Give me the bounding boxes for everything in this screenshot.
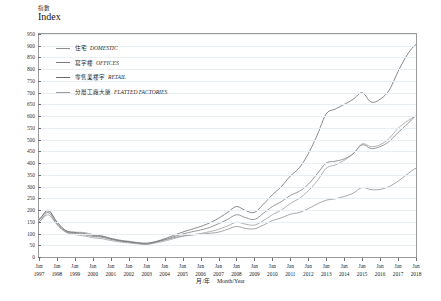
y-tick-label: 250 xyxy=(3,195,35,201)
x-tick-mark xyxy=(75,258,76,261)
gridline xyxy=(39,222,416,223)
series-line xyxy=(39,168,416,243)
gridline xyxy=(39,116,416,117)
y-tick-mark xyxy=(38,198,41,199)
gridline xyxy=(39,104,416,105)
y-tick-mark xyxy=(38,57,41,58)
y-tick-mark xyxy=(38,151,41,152)
y-tick-label: 200 xyxy=(3,207,35,213)
y-tick-label: 400 xyxy=(3,160,35,166)
legend-item: 住宅DOMESTIC xyxy=(56,41,167,56)
y-tick-mark xyxy=(38,34,41,35)
y-axis-title-en: Index xyxy=(38,12,61,23)
x-tick-mark xyxy=(272,258,273,261)
x-tick-mark xyxy=(236,258,237,261)
series-line xyxy=(39,116,416,244)
y-tick-mark xyxy=(38,81,41,82)
x-tick-mark xyxy=(380,258,381,261)
y-tick-label: 850 xyxy=(3,54,35,60)
gridline xyxy=(39,245,416,246)
x-tick-mark xyxy=(183,258,184,261)
x-tick-mark xyxy=(201,258,202,261)
y-tick-label: 750 xyxy=(3,78,35,84)
y-tick-mark xyxy=(38,210,41,211)
y-tick-label: 500 xyxy=(3,137,35,143)
x-tick-mark xyxy=(398,258,399,261)
y-tick-label: 800 xyxy=(3,66,35,72)
y-tick-label: 950 xyxy=(3,31,35,37)
gridline xyxy=(39,187,416,188)
y-tick-label: 350 xyxy=(3,172,35,178)
x-tick-mark xyxy=(254,258,255,261)
y-tick-mark xyxy=(38,245,41,246)
x-tick-mark xyxy=(219,258,220,261)
gridline xyxy=(39,163,416,164)
x-tick-mark xyxy=(111,258,112,261)
x-tick-mark xyxy=(416,258,417,261)
legend-label-en: FLATTED FACTORIES xyxy=(114,89,167,95)
y-tick-mark xyxy=(38,69,41,70)
legend-line-icon xyxy=(56,92,70,93)
legend-line-icon xyxy=(56,62,70,63)
x-axis-title: 月/年 Month/Year xyxy=(0,276,441,285)
y-tick-label: 900 xyxy=(3,43,35,49)
y-tick-label: 300 xyxy=(3,184,35,190)
y-tick-label: 100 xyxy=(3,231,35,237)
x-tick-mark xyxy=(147,258,148,261)
x-tick-mark xyxy=(326,258,327,261)
legend-label: 分層工廠大廈FLATTED FACTORIES xyxy=(75,88,167,96)
y-tick-label: 150 xyxy=(3,219,35,225)
legend-line-icon xyxy=(56,77,70,78)
x-tick-mark xyxy=(165,258,166,261)
y-tick-label: 650 xyxy=(3,101,35,107)
legend-label-en: OFFICES xyxy=(96,60,119,66)
legend-label-en: DOMESTIC xyxy=(90,45,118,51)
legend-label-cn: 零售業樓宇 xyxy=(75,74,105,80)
gridline xyxy=(39,198,416,199)
legend-label-cn: 寫字樓 xyxy=(75,60,93,66)
y-axis-title: 指數 Index xyxy=(38,6,61,22)
y-tick-mark xyxy=(38,187,41,188)
legend-label-cn: 住宅 xyxy=(75,45,87,51)
y-tick-mark xyxy=(38,222,41,223)
series-line xyxy=(39,116,416,244)
x-tick-mark xyxy=(344,258,345,261)
y-tick-mark xyxy=(38,93,41,94)
x-tick-mark xyxy=(39,258,40,261)
y-tick-mark xyxy=(38,234,41,235)
legend-label: 零售業樓宇RETAIL xyxy=(75,73,126,81)
legend-label-cn: 分層工廠大廈 xyxy=(75,89,111,95)
legend-item: 分層工廠大廈FLATTED FACTORIES xyxy=(56,85,167,100)
legend-item: 零售業樓宇RETAIL xyxy=(56,70,167,85)
x-tick-mark xyxy=(57,258,58,261)
x-axis-title-cn: 月/年 xyxy=(196,278,210,284)
x-tick-mark xyxy=(290,258,291,261)
y-tick-mark xyxy=(38,175,41,176)
y-tick-label: 600 xyxy=(3,113,35,119)
gridline xyxy=(39,128,416,129)
y-tick-label: 550 xyxy=(3,125,35,131)
y-tick-mark xyxy=(38,140,41,141)
y-tick-mark xyxy=(38,163,41,164)
legend-item: 寫字樓OFFICES xyxy=(56,56,167,71)
y-tick-mark xyxy=(38,46,41,47)
gridline xyxy=(39,140,416,141)
x-tick-mark xyxy=(362,258,363,261)
y-tick-label: 450 xyxy=(3,148,35,154)
legend-line-icon xyxy=(56,48,70,49)
x-tick-mark xyxy=(129,258,130,261)
legend: 住宅DOMESTIC寫字樓OFFICES零售業樓宇RETAIL分層工廠大廈FLA… xyxy=(56,41,167,99)
y-tick-mark xyxy=(38,128,41,129)
legend-label: 住宅DOMESTIC xyxy=(75,44,118,52)
y-tick-label: 50 xyxy=(3,242,35,248)
gridline xyxy=(39,234,416,235)
legend-label-en: RETAIL xyxy=(108,74,126,80)
y-tick-mark xyxy=(38,104,41,105)
x-axis-title-en: Month/Year xyxy=(217,278,245,284)
gridline xyxy=(39,210,416,211)
legend-label: 寫字樓OFFICES xyxy=(75,59,119,67)
x-tick-mark xyxy=(308,258,309,261)
y-tick-label: 700 xyxy=(3,90,35,96)
x-tick-month: Jan xyxy=(412,263,419,269)
y-tick-label: 0 xyxy=(3,254,35,260)
